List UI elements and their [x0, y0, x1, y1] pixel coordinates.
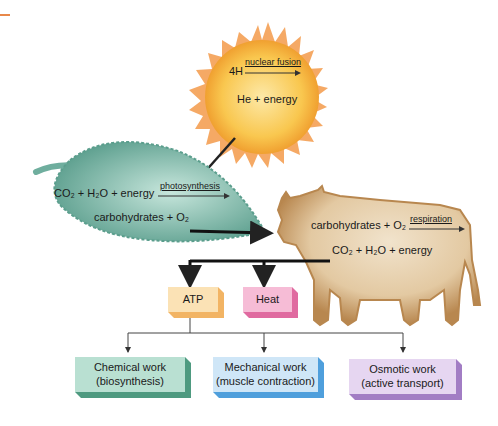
- leaf-process-label: photosynthesis: [160, 181, 220, 191]
- leaf-to-cow-arrow: [190, 231, 268, 233]
- osmotic-work: Osmotic work (active transport): [349, 359, 456, 394]
- respiration-arrow: [409, 226, 465, 232]
- leaf-products: carbohydrates + O₂: [94, 211, 189, 223]
- mechanical-work-title: Mechanical work: [225, 361, 307, 375]
- chemical-work-title: Chemical work: [94, 361, 166, 375]
- heat-label: Heat: [243, 287, 292, 312]
- atp-label: ATP: [168, 287, 218, 312]
- mechanical-work: Mechanical work (muscle contraction): [213, 357, 318, 392]
- corner-mark: [0, 14, 10, 16]
- chemical-work: Chemical work (biosynthesis): [75, 357, 185, 392]
- sun-product: He + energy: [237, 93, 297, 105]
- photosynthesis-arrow: [158, 193, 230, 199]
- sun-process-label: nuclear fusion: [245, 57, 301, 67]
- sun-reaction-arrow: [245, 70, 301, 76]
- osmotic-work-detail: (active transport): [361, 377, 444, 391]
- atp-to-work-connector: [128, 318, 403, 352]
- cow-process-label: respiration: [410, 214, 452, 224]
- osmotic-work-title: Osmotic work: [369, 363, 436, 377]
- leaf-reactants: CO₂ + H₂O + energy: [54, 187, 154, 199]
- chemical-work-detail: (biosynthesis): [96, 375, 164, 389]
- sun-reactant: 4H: [229, 65, 243, 77]
- mechanical-work-detail: (muscle contraction): [216, 375, 315, 389]
- cow-reactants: carbohydrates + O₂: [311, 219, 406, 231]
- cow-products: CO₂ + H₂O + energy: [332, 244, 432, 256]
